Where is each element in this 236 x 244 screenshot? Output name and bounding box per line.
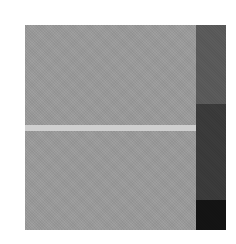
- side-column: [196, 25, 226, 230]
- side-block-top: [196, 25, 226, 104]
- figure: [25, 25, 226, 230]
- canvas: [0, 0, 236, 244]
- side-block-bottom: [196, 200, 226, 230]
- side-block-middle: [196, 104, 226, 200]
- light-horizontal-stripe: [25, 125, 196, 131]
